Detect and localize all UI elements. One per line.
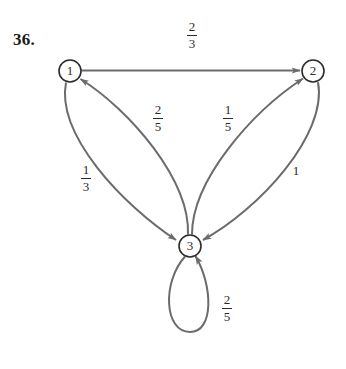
fraction-denominator: 5 (153, 118, 164, 134)
node-3-label: 3 (179, 239, 201, 252)
edge-3-to-1 (81, 79, 189, 235)
edge-label-2-to-3: 1 (288, 164, 304, 178)
fraction-numerator: 1 (223, 103, 234, 118)
diagram-page: 36. 1 2 3 2 3 (0, 0, 346, 369)
fraction-2-3: 2 3 (187, 20, 198, 50)
edge-label-3-to-3: 2 5 (216, 293, 238, 323)
node-1-label: 1 (59, 64, 81, 77)
fraction-2-5-self-loop: 2 5 (222, 293, 233, 323)
edge-label-3-to-1: 2 5 (147, 103, 169, 133)
edge-label-3-to-2: 1 5 (217, 103, 239, 133)
fraction-1-5: 1 5 (223, 103, 234, 133)
edge-label-1-to-2: 2 3 (181, 20, 203, 50)
fraction-2-5: 2 5 (153, 103, 164, 133)
fraction-denominator: 5 (222, 308, 233, 324)
fraction-denominator: 3 (187, 35, 198, 51)
fraction-denominator: 3 (81, 178, 92, 194)
edge-3-to-3-self-loop (169, 256, 208, 332)
fraction-numerator: 2 (222, 293, 233, 308)
fraction-1-3: 1 3 (81, 163, 92, 193)
node-2-label: 2 (302, 64, 324, 77)
fraction-numerator: 2 (187, 20, 198, 35)
fraction-numerator: 2 (153, 103, 164, 118)
integer-1: 1 (293, 164, 300, 178)
state-transition-diagram (0, 0, 346, 369)
fraction-numerator: 1 (81, 163, 92, 178)
fraction-denominator: 5 (223, 118, 234, 134)
edge-3-to-2 (192, 79, 303, 235)
edge-label-1-to-3: 1 3 (75, 163, 97, 193)
